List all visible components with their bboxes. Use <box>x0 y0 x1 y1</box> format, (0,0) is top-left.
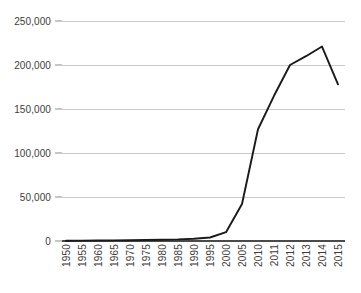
x-axis-tick-label: 2014 <box>317 244 328 267</box>
x-axis-tick-label: 2010 <box>253 244 264 267</box>
x-axis-tick-label: 2000 <box>221 244 232 267</box>
y-axis-tick-label: 50,000 <box>20 192 51 203</box>
y-axis-tick-label: 150,000 <box>14 104 51 115</box>
series-line <box>66 47 338 241</box>
x-axis-tick-label: 2015 <box>333 244 344 267</box>
data-series-layer <box>62 21 345 241</box>
x-axis-tick-label: 2013 <box>301 244 312 267</box>
x-axis: 1950195519601965197019751980198519901995… <box>62 244 345 293</box>
y-axis-tick-label: 100,000 <box>14 148 51 159</box>
x-axis-tick-label: 1950 <box>61 244 72 267</box>
x-axis-tick-label: 2012 <box>285 244 296 267</box>
y-axis: 050,000100,000150,000200,000250,000 <box>0 0 62 293</box>
x-axis-tick-label: 1960 <box>93 244 104 267</box>
x-axis-tick-label: 1995 <box>205 244 216 267</box>
x-axis-tick-label: 2005 <box>237 244 248 267</box>
x-axis-tick-label: 1990 <box>189 244 200 267</box>
plot-area <box>62 21 345 241</box>
y-axis-tick-mark <box>55 197 62 198</box>
x-axis-tick-label: 1965 <box>109 244 120 267</box>
y-axis-tick-mark <box>55 153 62 154</box>
line-chart: 050,000100,000150,000200,000250,000 1950… <box>0 0 361 293</box>
y-axis-tick-mark <box>55 65 62 66</box>
y-axis-tick-label: 200,000 <box>14 60 51 71</box>
y-axis-tick-label: 250,000 <box>14 16 51 27</box>
y-axis-tick-mark <box>55 109 62 110</box>
y-axis-tick-mark <box>55 241 62 242</box>
x-axis-tick-label: 1970 <box>125 244 136 267</box>
x-axis-tick-label: 1975 <box>141 244 152 267</box>
x-axis-tick-label: 1985 <box>173 244 184 267</box>
x-axis-tick-label: 2011 <box>269 244 280 266</box>
x-axis-tick-label: 1980 <box>157 244 168 267</box>
y-axis-tick-label: 0 <box>45 236 51 247</box>
x-axis-tick-label: 1955 <box>77 244 88 267</box>
y-axis-tick-mark <box>55 21 62 22</box>
